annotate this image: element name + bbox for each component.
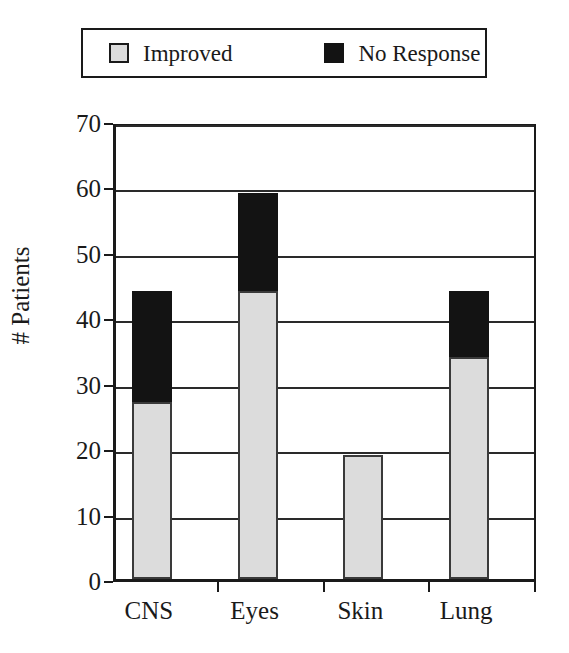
y-tick-label: 20 [57,438,101,463]
x-tick-label-skin: Skin [300,597,420,625]
y-axis-label: # Patients [8,206,33,386]
y-tick-label: 70 [57,111,101,136]
x-tick-mark [534,582,536,592]
bar-segment-no-response[interactable] [132,291,172,402]
legend-label-no-response: No Response [358,42,480,65]
x-tick-label-cns: CNS [89,597,209,625]
y-tick-mark [104,581,113,583]
bar-segment-no-response[interactable] [238,193,278,291]
bar-segment-no-response[interactable] [449,291,489,356]
y-tick-label: 10 [57,504,101,529]
bar-segment-improved[interactable] [238,291,278,579]
y-tick-mark [104,254,113,256]
bar-lung[interactable] [449,291,489,579]
x-tick-mark [217,582,219,592]
bar-segment-improved[interactable] [132,402,172,579]
x-tick-label-lung: Lung [406,597,526,625]
legend-label-improved: Improved [143,42,232,65]
gridline [116,256,534,258]
legend-swatch-improved-icon [109,43,129,63]
legend-swatch-no-response-icon [324,43,344,63]
x-tick-mark [323,582,325,592]
legend-item-improved: Improved [109,42,232,65]
bar-cns[interactable] [132,291,172,579]
legend-item-no-response: No Response [324,42,480,65]
chart-figure: Improved No Response # Patients 01020304… [0,0,569,653]
bar-eyes[interactable] [238,193,278,579]
y-tick-mark [104,319,113,321]
y-tick-label: 0 [57,569,101,594]
y-tick-mark [104,123,113,125]
gridline [116,125,534,127]
y-tick-mark [104,450,113,452]
y-tick-label: 50 [57,242,101,267]
x-tick-mark [428,582,430,592]
y-tick-mark [104,385,113,387]
x-tick-label-eyes: Eyes [195,597,315,625]
y-tick-label: 30 [57,373,101,398]
plot-area [113,124,536,582]
bar-segment-improved[interactable] [449,357,489,579]
bar-segment-improved[interactable] [343,455,383,579]
y-tick-label: 40 [57,307,101,332]
chart-legend: Improved No Response [81,28,487,78]
bar-skin[interactable] [343,455,383,579]
y-tick-label: 60 [57,176,101,201]
y-tick-mark [104,188,113,190]
gridline [116,190,534,192]
y-tick-mark [104,516,113,518]
